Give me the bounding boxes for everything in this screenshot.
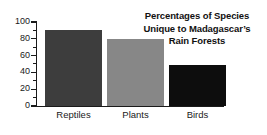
bar-plants bbox=[107, 39, 164, 106]
x-axis-line bbox=[36, 106, 224, 107]
x-axis-label-birds: Birds bbox=[163, 109, 232, 120]
y-axis-tick-label: 40 bbox=[0, 66, 30, 76]
y-axis-tick-label: 0 bbox=[0, 100, 30, 110]
bar-group bbox=[37, 22, 223, 106]
y-axis-tick-label: 20 bbox=[0, 83, 30, 93]
x-axis-tick-labels: ReptilesPlantsBirds bbox=[37, 109, 227, 127]
y-axis-tick-label: 80 bbox=[0, 33, 30, 43]
y-axis-tick-label: 60 bbox=[0, 50, 30, 60]
y-axis-tick-labels: 020406080100 bbox=[0, 0, 30, 135]
x-axis-label-plants: Plants bbox=[101, 109, 170, 120]
bar-reptiles bbox=[45, 30, 102, 106]
y-axis-tick-label: 100 bbox=[0, 16, 30, 26]
bar-birds bbox=[169, 65, 226, 106]
x-axis-label-reptiles: Reptiles bbox=[39, 109, 108, 120]
chart-title-line-1: Percentages of Species bbox=[130, 10, 264, 23]
chart-figure: Percentages of Species Unique to Madagas… bbox=[0, 0, 267, 135]
